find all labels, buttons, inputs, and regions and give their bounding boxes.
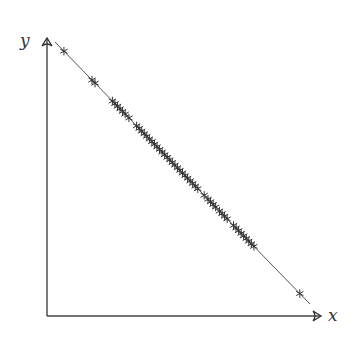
x-axis-label: x [328, 305, 338, 325]
chart: x y [0, 0, 358, 339]
y-axis-label: y [19, 30, 30, 50]
